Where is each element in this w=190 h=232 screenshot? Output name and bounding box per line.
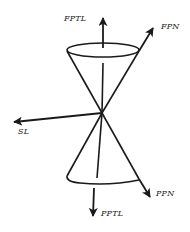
lower-cone-axis	[97, 113, 102, 178]
lower-cone-right-edge	[102, 113, 139, 179]
diagram-canvas: FPTL FPN SL PPN PPTL	[0, 0, 190, 232]
upper-cone-axis	[102, 63, 103, 113]
fptl-label: FPTL	[63, 14, 86, 23]
ppn-arrow-icon	[139, 179, 150, 197]
lower-cone	[67, 113, 139, 184]
upper-cone-left-edge	[67, 51, 102, 113]
pptl-vector: PPTL	[93, 188, 123, 218]
fpn-label: FPN	[160, 22, 180, 31]
fpn-vector: FPN	[139, 22, 180, 51]
sl-vector: SL	[14, 113, 102, 136]
ppn-vector: PPN	[139, 179, 175, 198]
upper-cone	[67, 43, 139, 113]
pptl-arrow-icon	[93, 188, 94, 216]
lower-cone-rim	[67, 176, 139, 184]
pptl-label: PPTL	[100, 209, 123, 218]
lower-cone-left-edge	[67, 113, 102, 176]
ppn-label: PPN	[155, 189, 175, 198]
double-cone-diagram: FPTL FPN SL PPN PPTL	[0, 0, 190, 232]
upper-cone-right-edge	[102, 51, 139, 113]
sl-arrow-icon	[14, 113, 102, 122]
sl-label: SL	[18, 127, 29, 136]
fpn-arrow-icon	[139, 28, 153, 51]
